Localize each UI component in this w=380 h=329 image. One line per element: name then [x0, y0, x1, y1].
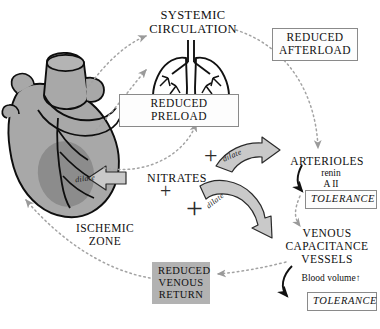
afterload-line-1: REDUCED — [278, 31, 352, 44]
label-renin-angiotensin: renin A II — [302, 168, 360, 190]
systemic-line-2: CIRCULATION — [128, 22, 258, 36]
label-systemic-circulation: SYSTEMIC CIRCULATION — [128, 8, 258, 36]
label-arterioles: ARTERIOLES — [282, 155, 372, 168]
label-venous-capacitance-vessels: VENOUS CAPACITANCE VESSELS — [275, 227, 379, 266]
plus-sign-venous: + — [186, 193, 203, 223]
plus-sign-heart: + — [160, 181, 171, 201]
label-nitrates: NITRATES — [140, 172, 214, 185]
rvr-line-3: RETURN — [158, 289, 204, 301]
label-ischemic-zone: ISCHEMIC ZONE — [62, 222, 148, 248]
label-renin: renin — [302, 168, 360, 179]
plus-sign-arterioles: + — [204, 143, 218, 167]
label-angiotensin-ii: A II — [302, 179, 360, 190]
arrow-arterioles-to-venous — [296, 196, 301, 226]
dilate-arrow-venous — [200, 180, 272, 238]
label-reduced-preload: REDUCED PRELOAD — [119, 94, 239, 127]
label-tolerance-venous: TOLERANCE — [307, 292, 377, 311]
rvr-line-2: VENOUS — [158, 277, 204, 289]
heart-icon — [2, 53, 120, 217]
afterload-line-2: AFTERLOAD — [278, 44, 352, 57]
venous-line-3: VESSELS — [275, 253, 379, 266]
rvr-line-1: REDUCED — [158, 265, 204, 277]
label-reduced-venous-return: REDUCED VENOUS RETURN — [152, 262, 210, 304]
venous-line-1: VENOUS — [275, 227, 379, 240]
dilate-arrow-arterioles — [216, 137, 280, 172]
label-blood-volume: Blood volume↑ — [289, 273, 373, 284]
venous-line-2: CAPACITANCE — [275, 240, 379, 253]
blood-volume-up-arrow-icon: ↑ — [356, 273, 361, 283]
blood-volume-text: Blood volume — [302, 273, 356, 283]
ischemic-line-2: ZONE — [62, 235, 148, 248]
ischemic-line-1: ISCHEMIC — [62, 222, 148, 235]
label-reduced-afterload: REDUCED AFTERLOAD — [272, 28, 358, 61]
label-tolerance-arterioles: TOLERANCE — [305, 190, 377, 209]
systemic-line-1: SYSTEMIC — [128, 8, 258, 22]
diagram-canvas: SYSTEMIC CIRCULATION REDUCED AFTERLOAD R… — [0, 0, 380, 329]
